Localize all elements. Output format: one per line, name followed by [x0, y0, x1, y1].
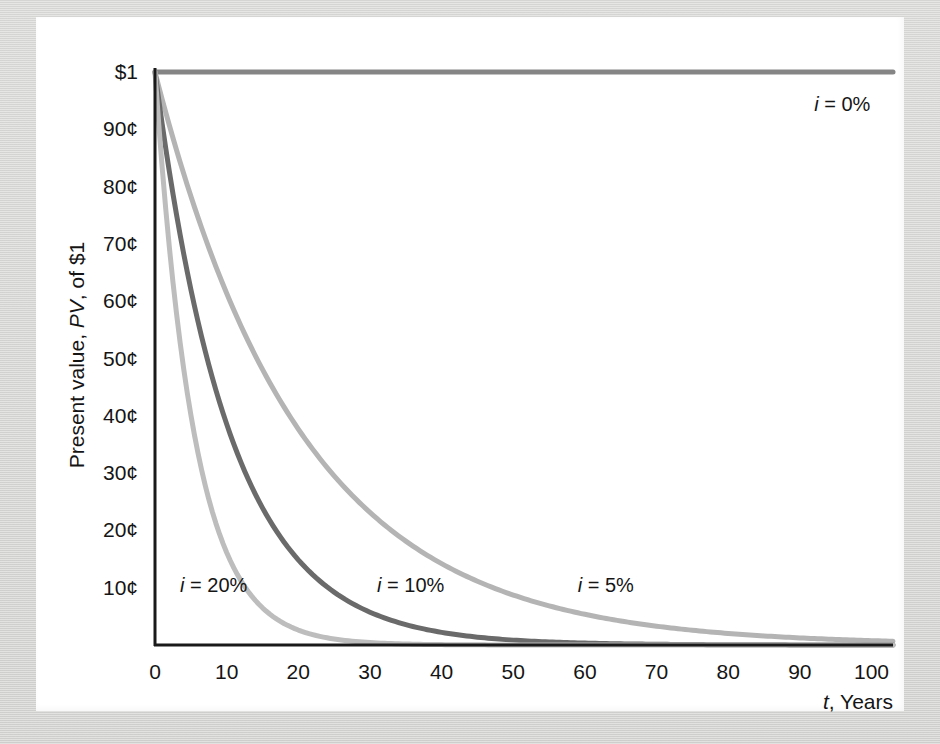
x-tick-label: 100 — [854, 660, 889, 683]
curve-label-0: i = 0% — [814, 93, 870, 115]
y-tick-label: 60¢ — [103, 289, 138, 312]
curve-label-0.1: i = 10% — [377, 574, 444, 596]
x-axis-tick-labels: 0102030405060708090100 — [149, 660, 889, 683]
y-tick-label: 80¢ — [103, 175, 138, 198]
y-axis-title: Present value, PV, of $1 — [65, 242, 88, 469]
x-tick-label: 50 — [502, 660, 525, 683]
curve-0.05 — [155, 72, 893, 641]
x-tick-label: 10 — [215, 660, 238, 683]
curve-label-0.2: i = 20% — [180, 574, 247, 596]
curve-0.2 — [155, 72, 893, 645]
x-tick-label: 90 — [788, 660, 811, 683]
y-axis-tick-labels: $190¢80¢70¢60¢50¢40¢30¢20¢10¢ — [103, 60, 138, 599]
chart-container: $190¢80¢70¢60¢50¢40¢30¢20¢10¢ 0102030405… — [0, 0, 940, 744]
curve-0.1 — [155, 72, 893, 645]
x-tick-label: 20 — [287, 660, 310, 683]
y-tick-label: 20¢ — [103, 518, 138, 541]
y-tick-label: 30¢ — [103, 461, 138, 484]
y-tick-label: 50¢ — [103, 347, 138, 370]
x-tick-label: 80 — [717, 660, 740, 683]
chart-axes — [154, 68, 893, 646]
y-tick-label: 10¢ — [103, 576, 138, 599]
y-tick-label: 40¢ — [103, 404, 138, 427]
x-tick-label: 0 — [149, 660, 161, 683]
curve-label-0.05: i = 5% — [578, 574, 634, 596]
y-tick-label: 90¢ — [103, 117, 138, 140]
x-tick-label: 40 — [430, 660, 453, 683]
y-tick-label: 70¢ — [103, 232, 138, 255]
x-tick-label: 30 — [358, 660, 381, 683]
x-axis-title: t, Years — [823, 690, 893, 713]
present-value-line-chart: $190¢80¢70¢60¢50¢40¢30¢20¢10¢ 0102030405… — [0, 0, 940, 744]
curve-inline-labels: i = 0%i = 5%i = 10%i = 20% — [180, 93, 870, 596]
x-tick-label: 70 — [645, 660, 668, 683]
chart-curves — [155, 72, 893, 645]
x-tick-label: 60 — [573, 660, 596, 683]
y-tick-label: $1 — [115, 60, 138, 83]
